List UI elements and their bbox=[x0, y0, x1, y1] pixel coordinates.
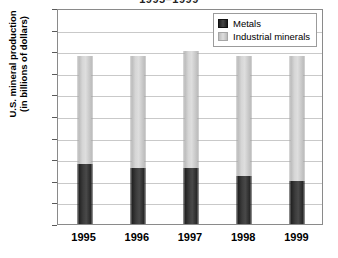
bar-segment-industrial-minerals[interactable] bbox=[184, 51, 199, 168]
bar-segment-metals[interactable] bbox=[130, 168, 145, 224]
stacked-bar[interactable] bbox=[130, 56, 145, 224]
legend-item-industrial-minerals[interactable]: Industrial minerals bbox=[218, 30, 310, 43]
legend-item-metals[interactable]: Metals bbox=[218, 17, 310, 30]
bar-segment-metals[interactable] bbox=[290, 181, 305, 224]
legend-label-industrial-minerals: Industrial minerals bbox=[233, 31, 310, 42]
y-axis-title: U.S. mineral production (in billions of … bbox=[7, 0, 29, 154]
bar-segment-industrial-minerals[interactable] bbox=[290, 56, 305, 181]
x-axis-tick-label: 1996 bbox=[107, 231, 167, 243]
stacked-bar[interactable] bbox=[237, 56, 252, 224]
bar-group bbox=[59, 10, 111, 224]
bar-segment-metals[interactable] bbox=[237, 176, 252, 224]
chart-legend: Metals Industrial minerals bbox=[213, 13, 317, 47]
y-axis-title-line1: U.S. mineral production bbox=[7, 0, 18, 154]
bar-segment-industrial-minerals[interactable] bbox=[237, 56, 252, 177]
stacked-bar[interactable] bbox=[77, 56, 92, 224]
x-axis-tick-label: 1999 bbox=[266, 231, 326, 243]
bar-group bbox=[112, 10, 164, 224]
x-axis-tick-label: 1997 bbox=[160, 231, 220, 243]
legend-swatch-metals-icon bbox=[218, 19, 228, 28]
bar-segment-metals[interactable] bbox=[184, 168, 199, 224]
bar-segment-metals[interactable] bbox=[77, 164, 92, 224]
legend-label-metals: Metals bbox=[233, 18, 261, 29]
chart-title: 1995–1999 bbox=[0, 0, 338, 5]
bar-group bbox=[165, 10, 217, 224]
bar-segment-industrial-minerals[interactable] bbox=[130, 56, 145, 168]
stacked-bar[interactable] bbox=[184, 51, 199, 224]
bar-segment-industrial-minerals[interactable] bbox=[77, 56, 92, 164]
y-axis-tick-mark bbox=[52, 225, 57, 226]
legend-swatch-industrial-minerals-icon bbox=[218, 32, 228, 41]
x-axis-tick-label: 1998 bbox=[213, 231, 273, 243]
stacked-bar[interactable] bbox=[290, 56, 305, 224]
x-axis-tick-label: 1995 bbox=[54, 231, 114, 243]
y-axis-title-line2: (in billions of dollars) bbox=[18, 0, 29, 154]
